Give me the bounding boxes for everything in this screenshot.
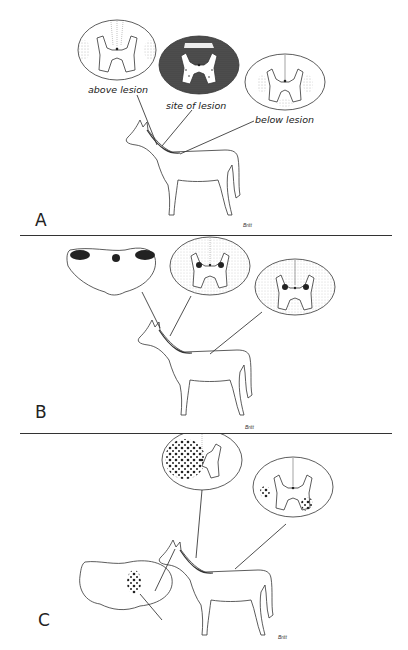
label-site-of-lesion: site of lesion: [166, 100, 226, 111]
leader-line-cervical: [170, 296, 191, 336]
leader-line-cervical: [196, 490, 202, 558]
panel-letter-a: A: [35, 210, 47, 230]
cord-section-thoracic: [255, 259, 335, 315]
cord-section-below-lesion: [245, 54, 325, 110]
panel-c: C Britt: [0, 434, 408, 650]
panel-c-illustration: [0, 434, 408, 650]
cord-section-above-lesion: [78, 20, 156, 80]
cord-section-site-of-lesion: [159, 36, 239, 94]
brainstem-section-lesions: [80, 561, 173, 610]
panel-b-illustration: [0, 236, 408, 432]
leader-line-below: [180, 121, 254, 154]
artist-signature: Britt: [243, 222, 252, 228]
horse-outline: [126, 120, 240, 215]
panel-a: above lesion site of lesion below lesion…: [0, 0, 408, 232]
label-below-lesion: below lesion: [255, 114, 314, 125]
leader-line-thoracic: [235, 524, 286, 569]
panel-letter-c: C: [38, 610, 50, 630]
artist-signature: Britt: [278, 634, 287, 640]
panel-a-illustration: [0, 0, 408, 232]
panel-letter-b: B: [35, 402, 47, 422]
cord-section-thoracic-lesions: [253, 457, 333, 517]
artist-signature: Britt: [245, 424, 254, 430]
cord-section-cervical-lesions: [162, 434, 242, 490]
leader-line-thoracic: [210, 312, 262, 354]
horse-outline: [159, 540, 273, 635]
brainstem-section: [67, 248, 156, 295]
panel-b: B Britt: [0, 236, 408, 432]
leader-line-site: [162, 110, 192, 146]
cord-section-cervical: [170, 237, 250, 295]
label-above-lesion: above lesion: [88, 84, 148, 95]
